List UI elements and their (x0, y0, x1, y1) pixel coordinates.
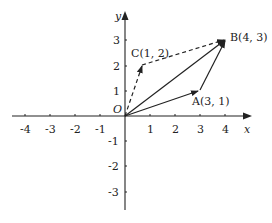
y-tick-label: -3 (108, 186, 119, 199)
y-tick-label: 3 (113, 34, 120, 47)
y-axis-arrow-icon (122, 11, 129, 20)
x-axis-arrow-icon (243, 113, 252, 120)
x-tick-label: 1 (147, 123, 154, 136)
y-tick-label: 2 (113, 60, 120, 73)
x-tick-label: 4 (222, 123, 229, 136)
vector-OA (125, 91, 198, 116)
x-axis: -4 -3 -2 -1 1 2 3 4 x (12, 113, 252, 137)
vector-OC (125, 66, 142, 116)
origin-label: O (113, 103, 122, 116)
y-axis-label: y (114, 10, 122, 23)
y-tick-label: 1 (113, 85, 120, 98)
y-axis: 3 2 1 -1 -2 -3 y O (108, 10, 129, 210)
x-tick-label: -2 (70, 123, 81, 136)
point-A-label: A(3, 1) (191, 95, 230, 108)
x-tick-label: 2 (172, 123, 179, 136)
x-tick-label: -1 (95, 123, 106, 136)
point-C-label: C(1, 2) (131, 47, 169, 60)
y-tick-label: -1 (108, 135, 119, 148)
vector-AB (200, 41, 225, 90)
x-tick-label: -4 (20, 123, 31, 136)
y-tick-label: -2 (108, 160, 119, 173)
x-tick-label: 3 (197, 123, 204, 136)
vector-diagram: -4 -3 -2 -1 1 2 3 4 x 3 2 1 -1 -2 -3 y O (0, 0, 272, 223)
x-tick-label: -3 (45, 123, 56, 136)
point-B-label: B(4, 3) (230, 31, 268, 44)
x-axis-label: x (244, 123, 251, 136)
